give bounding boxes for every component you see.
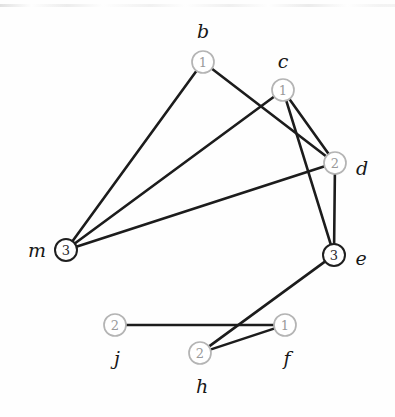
graph-node-d[interactable]: 2: [324, 152, 346, 174]
node-name-label-c: c: [278, 50, 289, 72]
edges-layer: [72, 68, 335, 350]
node-value-d: 2: [331, 156, 339, 171]
node-name-label-e: e: [355, 247, 366, 269]
graph-node-e[interactable]: 3: [323, 244, 345, 266]
node-name-label-j: j: [110, 347, 120, 369]
graph-node-j[interactable]: 2: [104, 314, 126, 336]
node-name-label-d: d: [356, 157, 368, 179]
node-value-c: 1: [279, 83, 287, 98]
graph-edge-e-h: [208, 261, 326, 347]
graph-node-f[interactable]: 1: [274, 314, 296, 336]
node-name-label-f: f: [281, 347, 293, 369]
graph-node-c[interactable]: 1: [272, 79, 294, 101]
node-value-f: 1: [281, 318, 289, 333]
node-value-b: 1: [199, 55, 207, 70]
node-value-e: 3: [330, 248, 338, 263]
node-value-m: 3: [62, 243, 70, 258]
node-value-j: 2: [111, 318, 119, 333]
graph-edge-d-e: [334, 173, 335, 245]
node-name-label-h: h: [196, 375, 208, 397]
graph-diagram-canvas: 11233221 bcdemjhf: [0, 0, 395, 417]
graph-node-h[interactable]: 2: [189, 342, 211, 364]
graph-edge-b-m: [72, 70, 197, 242]
graph-edge-m-d: [76, 166, 326, 247]
node-name-label-m: m: [28, 239, 46, 261]
graph-edge-c-m: [74, 96, 275, 244]
graph-edge-b-d: [211, 68, 327, 157]
graph-node-b[interactable]: 1: [192, 51, 214, 73]
node-value-h: 2: [196, 346, 204, 361]
node-name-label-b: b: [197, 20, 209, 42]
graph-svg: 11233221 bcdemjhf: [0, 0, 395, 417]
graph-node-m[interactable]: 3: [55, 239, 77, 261]
